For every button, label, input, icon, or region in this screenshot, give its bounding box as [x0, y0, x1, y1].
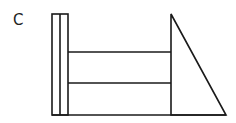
right-triangle [171, 14, 226, 115]
diagram-figure [0, 0, 236, 123]
